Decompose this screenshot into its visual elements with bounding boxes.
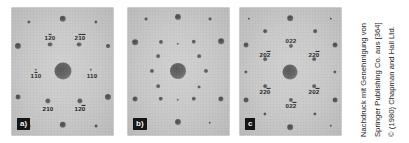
diffraction-spot [15, 43, 21, 49]
panel-tag-b: b) [133, 118, 147, 131]
diffraction-spot [289, 44, 293, 48]
figure-root: 120210110110210120 a) b) 022202220220202… [0, 0, 409, 143]
diffraction-spot [48, 42, 53, 47]
diffraction-spot [248, 18, 250, 20]
diffraction-spot [159, 40, 163, 44]
miller-index-label: 110 [31, 73, 42, 79]
diffraction-spot [132, 39, 138, 45]
diffraction-panel-b: b) [128, 8, 229, 135]
diffraction-spot [287, 124, 293, 130]
diffraction-spot [59, 16, 65, 22]
diffraction-spot [330, 125, 332, 127]
diffraction-spot [313, 29, 317, 33]
diffraction-spot [150, 69, 154, 73]
diffraction-spot [333, 98, 338, 103]
diffraction-spot [95, 125, 98, 128]
miller-index-label: 210 [75, 35, 86, 41]
diffraction-spot [59, 122, 65, 128]
panel-tag-c: c [245, 118, 255, 131]
diffraction-spot [218, 96, 223, 101]
diffraction-panel-a: 120210110110210120 a) [12, 8, 113, 135]
diffraction-spot [156, 84, 160, 88]
diffraction-spot [133, 97, 138, 102]
miller-index-label: 210 [43, 106, 54, 112]
diffraction-spot [263, 112, 266, 115]
diffraction-spot [77, 98, 82, 103]
miller-index-label: 022 [286, 38, 297, 44]
diffraction-spot [175, 119, 181, 125]
diffraction-spot [27, 20, 30, 23]
credit-line-3: © (1980) Chapman and Hall Ltd. [388, 26, 396, 137]
miller-index-label: 120 [45, 35, 56, 41]
diffraction-spot-central [54, 63, 71, 80]
credit-note: Nachdruck mit Genehmigung von Springer P… [352, 0, 409, 143]
diffraction-spot [192, 40, 196, 44]
diffraction-spot [197, 54, 201, 58]
diffraction-spot [45, 98, 50, 103]
diffraction-spot [198, 86, 201, 89]
diffraction-spot [330, 18, 332, 20]
diffraction-spot-central [283, 65, 298, 80]
miller-index-label: 110 [87, 73, 98, 79]
diffraction-spot [209, 122, 211, 124]
diffraction-spot [313, 112, 316, 115]
diffraction-spot [77, 42, 82, 47]
diffraction-spot [192, 97, 196, 101]
diffraction-spot [106, 44, 110, 48]
diffraction-spot [244, 70, 247, 73]
diffraction-spot [145, 18, 148, 21]
diffraction-spot [177, 43, 179, 45]
miller-index-label: 220 [309, 52, 320, 58]
diffraction-spot [333, 43, 338, 48]
diffraction-spot [16, 95, 21, 100]
miller-index-label: 202 [309, 89, 320, 95]
miller-index-label: 022 [286, 103, 297, 109]
diffraction-spot [175, 14, 181, 20]
diffraction-spot [156, 54, 160, 58]
miller-index-label: 220 [260, 89, 271, 95]
credit-line-1: Nachdruck mit Genehmigung von [360, 23, 368, 137]
diffraction-spot [105, 94, 111, 100]
panel-tag-a: a) [17, 118, 30, 131]
miller-index-label: 120 [75, 106, 86, 112]
diffraction-spot [218, 38, 224, 44]
diffraction-spot [204, 69, 208, 73]
diffraction-spot [90, 69, 92, 71]
diffraction-spot [159, 97, 163, 101]
diffraction-spot [244, 98, 249, 103]
diffraction-spot [94, 20, 97, 23]
diffraction-spot [177, 99, 179, 101]
diffraction-spot [263, 29, 267, 33]
diffraction-spot [333, 70, 336, 73]
diffraction-panel-c: 022202220220202022 c [240, 8, 341, 135]
miller-index-label: 202 [260, 52, 271, 58]
diffraction-spot [287, 15, 293, 21]
diffraction-spot [244, 43, 249, 48]
diffraction-spot-central [170, 63, 186, 79]
credit-line-2: Springer Publishing Co. aus [364] [374, 22, 382, 137]
diffraction-spot [209, 18, 212, 21]
